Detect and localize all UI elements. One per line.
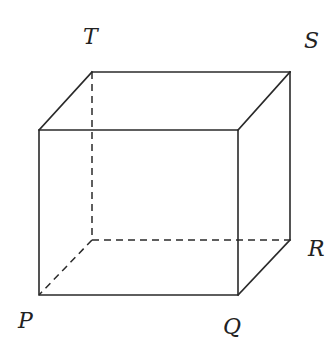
cube-diagram: T S R P Q bbox=[0, 0, 332, 354]
hidden-edge-bottom-left-diagonal bbox=[39, 240, 92, 295]
label-R: R bbox=[307, 236, 325, 261]
label-T: T bbox=[83, 24, 100, 49]
edge-bottom-right-diagonal bbox=[238, 240, 290, 295]
label-S: S bbox=[304, 28, 319, 53]
label-Q: Q bbox=[223, 314, 241, 339]
hidden-edges bbox=[39, 72, 290, 295]
label-P: P bbox=[17, 308, 34, 333]
edge-top-left-diagonal bbox=[39, 72, 92, 130]
edge-top-right-diagonal bbox=[238, 72, 290, 130]
visible-edges bbox=[39, 72, 290, 295]
front-face bbox=[39, 130, 238, 295]
